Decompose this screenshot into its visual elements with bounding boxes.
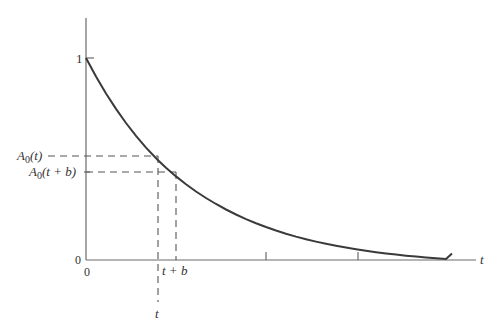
- a0-t-main: A: [16, 148, 25, 163]
- y-label-one: 1: [76, 51, 83, 66]
- t-plus-b-label: t + b: [162, 263, 188, 278]
- a0-t-arg: (t): [30, 148, 42, 163]
- a0-tb-main: A: [28, 164, 37, 179]
- a0-tb-arg: (t + b): [42, 164, 76, 179]
- t-bottom-label: t: [155, 306, 159, 321]
- decay-diagram: 1 0 0 t A0(t) A0(t + b) t + b t: [0, 0, 497, 322]
- y-label-zero: 0: [75, 253, 81, 267]
- a0-tb-label: A0(t + b): [28, 164, 76, 181]
- diagram-canvas: 1 0 0 t A0(t) A0(t + b) t + b t: [0, 0, 497, 322]
- x-label-zero: 0: [84, 265, 90, 279]
- a0-t-label: A0(t): [16, 148, 42, 165]
- decay-curve: [86, 58, 452, 259]
- x-axis-label: t: [480, 252, 484, 267]
